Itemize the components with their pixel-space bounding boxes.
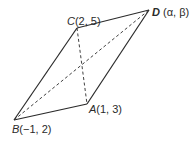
label-point-d: D (α, β) — [152, 6, 189, 18]
edge-c-b — [14, 28, 77, 120]
diagonal-c-a — [77, 28, 87, 104]
label-point-a: A(1, 3) — [88, 103, 122, 115]
label-point-b: B(−1, 2) — [12, 123, 51, 135]
label-point-c: C(2, 5) — [67, 15, 101, 27]
parallelogram-diagram: C(2, 5) D (α, β) A(1, 3) B(−1, 2) — [0, 0, 195, 142]
edge-b-a — [14, 104, 87, 120]
